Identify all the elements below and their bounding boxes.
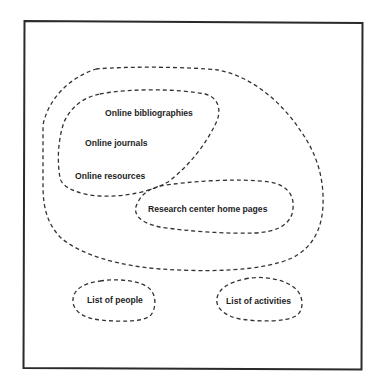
label-list-of-activities: List of activities xyxy=(226,296,291,306)
label-research-center-home-pages: Research center home pages xyxy=(148,204,268,214)
label-online-resources: Online resources xyxy=(75,171,145,181)
euler-diagram: Online bibliographies Online journals On… xyxy=(0,0,381,389)
label-online-bibliographies: Online bibliographies xyxy=(105,108,193,118)
diagram-frame xyxy=(24,21,363,370)
label-list-of-people: List of people xyxy=(87,295,143,305)
label-online-journals: Online journals xyxy=(85,138,148,148)
